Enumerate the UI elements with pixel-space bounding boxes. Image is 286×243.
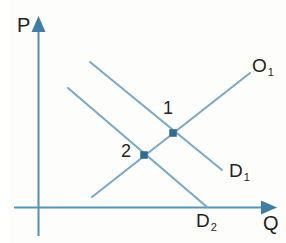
equilibrium-marker-2 (140, 151, 148, 159)
demand-curve-d1 (90, 62, 222, 170)
axis-group (14, 16, 277, 236)
figure-canvas: P Q O1 D1 D2 1 2 (0, 0, 286, 243)
equilibrium-label-2: 2 (121, 142, 131, 160)
demand-curve-d2 (68, 88, 207, 207)
equilibrium-marker-1 (169, 129, 177, 137)
y-axis-label: P (17, 15, 30, 35)
equilibrium-label-1: 1 (163, 99, 173, 117)
demand-curve-label-d1-subscript: 1 (244, 171, 250, 183)
x-axis-label: Q (263, 213, 279, 233)
curve-group (68, 62, 250, 207)
demand-curve-label-d1-base: D (229, 160, 243, 181)
y-axis-arrowhead (32, 16, 46, 32)
supply-curve-label-o1: O1 (252, 56, 273, 75)
supply-curve-label-base: O (252, 55, 267, 76)
demand-curve-label-d1: D1 (229, 161, 249, 180)
demand-curve-label-d2-base: D (196, 210, 210, 231)
demand-curve-label-d2: D2 (196, 211, 216, 230)
demand-curve-label-d2-subscript: 2 (211, 221, 217, 233)
supply-curve-label-subscript: 1 (268, 66, 274, 78)
supply-demand-plot (0, 0, 286, 243)
